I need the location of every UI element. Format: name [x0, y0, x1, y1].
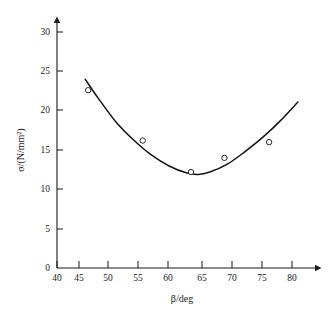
- y-tick-label-10: 10: [41, 184, 51, 194]
- fitted-curve: [85, 79, 298, 174]
- data-point: [222, 155, 227, 160]
- x-tick-label-65: 65: [197, 273, 207, 283]
- y-tick-label-5: 5: [45, 224, 50, 234]
- y-tick-label-0: 0: [45, 263, 50, 273]
- x-tick-label-40: 40: [52, 273, 62, 283]
- x-tick-label-50: 50: [103, 273, 113, 283]
- data-point: [188, 169, 193, 174]
- figure-container: 30 25 20 15 10 5 0 40 45 50 55 60: [0, 0, 330, 313]
- x-tick-label-70: 70: [227, 273, 237, 283]
- y-tick-label-20: 20: [41, 105, 51, 115]
- data-point-markers: [85, 88, 271, 175]
- data-point: [85, 88, 90, 93]
- x-tick-label-55: 55: [133, 273, 143, 283]
- x-tick-label-60: 60: [163, 273, 173, 283]
- scatter-plot-sigma-vs-beta: 30 25 20 15 10 5 0 40 45 50 55 60: [0, 0, 330, 313]
- y-axis-ticks: [57, 32, 63, 229]
- y-tick-label-15: 15: [41, 145, 51, 155]
- x-tick-label-45: 45: [74, 273, 84, 283]
- y-axis-title: σ/(N/mm²): [15, 128, 27, 171]
- x-tick-label-80: 80: [287, 273, 297, 283]
- y-axis-tick-labels: 30 25 20 15 10 5 0: [41, 27, 51, 273]
- x-axis-tick-labels: 40 45 50 55 60 65 70 75 80: [52, 273, 297, 283]
- data-point: [266, 139, 271, 144]
- y-tick-label-30: 30: [41, 27, 51, 37]
- y-tick-label-25: 25: [41, 66, 51, 76]
- x-tick-label-75: 75: [257, 273, 267, 283]
- x-axis-title: β/deg: [171, 293, 193, 304]
- data-point: [140, 138, 145, 143]
- x-axis-ticks: [57, 261, 292, 268]
